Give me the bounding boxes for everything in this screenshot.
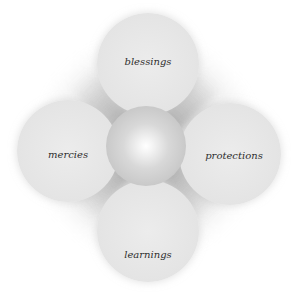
label-mercies: mercies	[48, 149, 88, 160]
label-blessings: blessings	[125, 56, 172, 67]
center-glow-sphere	[106, 106, 186, 186]
petal-learnings	[97, 180, 199, 282]
label-protections: protections	[205, 150, 263, 161]
label-learnings: learnings	[124, 249, 171, 260]
